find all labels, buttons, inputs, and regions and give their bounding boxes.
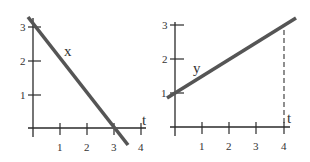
left-y-label-2: 2 xyxy=(20,55,26,67)
left-x-label-3: 3 xyxy=(111,141,117,153)
left-x-label-1: 1 xyxy=(57,141,63,153)
right-chart: 3 2 1 1 2 3 4 t y xyxy=(161,18,296,152)
right-y-label-3: 3 xyxy=(162,19,168,31)
series-line-y xyxy=(167,18,296,98)
right-y-label-1: 1 xyxy=(161,87,167,99)
right-x-label-4: 4 xyxy=(281,140,287,152)
chart-canvas: 3 2 1 1 2 3 4 t x 3 2 1 1 2 3 4 t xyxy=(0,0,310,162)
left-x-label-2: 2 xyxy=(84,141,90,153)
right-x-label-1: 1 xyxy=(199,140,205,152)
series-label-x: x xyxy=(64,43,72,59)
right-x-label-3: 3 xyxy=(253,140,259,152)
right-x-label-2: 2 xyxy=(226,140,232,152)
left-y-label-1: 1 xyxy=(20,89,26,101)
left-y-label-3: 3 xyxy=(20,21,26,33)
left-x-label-4: 4 xyxy=(138,141,144,153)
right-x-axis-title: t xyxy=(287,110,292,126)
left-x-axis-title: t xyxy=(142,112,147,128)
right-y-label-2: 2 xyxy=(162,53,168,65)
series-label-y: y xyxy=(193,60,201,76)
series-line-x xyxy=(28,17,128,145)
left-chart: 3 2 1 1 2 3 4 t x xyxy=(20,17,147,153)
